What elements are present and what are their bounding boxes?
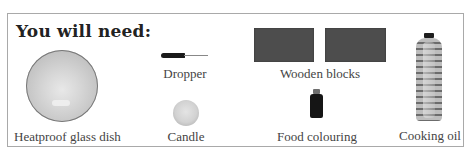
item-label-cooking-oil: Cooking oil [398,128,462,144]
dropper-tube [184,55,208,56]
item-label-wooden-blocks: Wooden blocks [274,66,366,82]
food-colouring-bottle-icon [310,94,323,118]
oil-bottle-icon [416,38,442,121]
dropper-icon [161,53,185,58]
section-heading: You will need: [16,21,151,41]
wooden-block-icon [325,28,386,62]
item-label-candle: Candle [162,129,210,145]
item-label-heatproof-glass-dish: Heatproof glass dish [14,129,112,145]
item-label-dropper: Dropper [158,66,212,82]
item-label-food-colouring: Food colouring [272,129,362,145]
wooden-block-icon [254,28,314,62]
glass-dish-icon [26,50,98,122]
candle-icon [173,100,199,126]
